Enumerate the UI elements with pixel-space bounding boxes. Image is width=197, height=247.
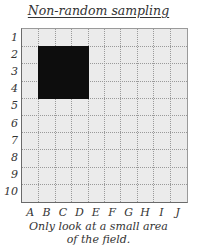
row-label: 7 bbox=[0, 134, 18, 147]
caption: Only look at a small area of the field. bbox=[0, 220, 197, 246]
column-label: B bbox=[39, 206, 55, 219]
row-label: 4 bbox=[0, 82, 18, 95]
grid-horizontal-line bbox=[22, 184, 187, 185]
column-label: I bbox=[153, 206, 169, 219]
column-label: A bbox=[22, 206, 38, 219]
column-label: D bbox=[71, 206, 87, 219]
row-label: 6 bbox=[0, 117, 18, 130]
column-label: G bbox=[121, 206, 137, 219]
caption-line-2: of the field. bbox=[0, 233, 197, 246]
column-label: J bbox=[170, 206, 186, 219]
column-label: H bbox=[137, 206, 153, 219]
row-label: 2 bbox=[0, 48, 18, 61]
sampling-grid bbox=[21, 28, 188, 203]
caption-line-1: Only look at a small area bbox=[0, 220, 197, 233]
diagram-title: Non-random sampling bbox=[0, 3, 197, 18]
column-label: C bbox=[55, 206, 71, 219]
column-label: F bbox=[104, 206, 120, 219]
row-label: 9 bbox=[0, 168, 18, 181]
grid-horizontal-line bbox=[22, 149, 187, 150]
grid-horizontal-line bbox=[22, 167, 187, 168]
row-label: 1 bbox=[0, 31, 18, 44]
row-label: 3 bbox=[0, 65, 18, 78]
column-label: E bbox=[88, 206, 104, 219]
row-label: 10 bbox=[0, 185, 18, 198]
row-label: 5 bbox=[0, 99, 18, 112]
row-label: 8 bbox=[0, 151, 18, 164]
grid-horizontal-line bbox=[22, 132, 187, 133]
sampled-area-block bbox=[38, 46, 89, 99]
grid-horizontal-line bbox=[22, 115, 187, 116]
